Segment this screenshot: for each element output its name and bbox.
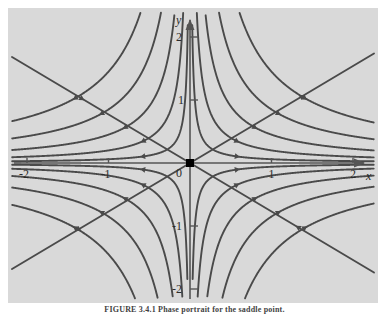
y-axis-label: y	[176, 14, 181, 26]
figure-caption: FIGURE 3.4.1 Phase portrait for the sadd…	[0, 304, 389, 326]
phase-portrait-plot	[8, 8, 378, 303]
x-tick-label--2: -2	[19, 168, 29, 180]
x-tick-label-2: 2	[350, 168, 356, 180]
y-tick-label-2: 2	[176, 31, 182, 43]
x-tick-label-1: 1	[269, 168, 275, 180]
plot-panel: y x 0 -2 -1 1 2 2 1 -1 -2	[8, 8, 378, 303]
figure-container: y x 0 -2 -1 1 2 2 1 -1 -2 FIGURE 3.4.1 P…	[0, 0, 389, 326]
origin-tick-label: 0	[176, 167, 182, 179]
trajectory-curves	[12, 13, 374, 298]
x-tick-label--1: -1	[101, 168, 111, 180]
y-tick-label--2: -2	[172, 283, 182, 295]
equilibrium-point-marker	[186, 159, 194, 167]
figure-caption-text: FIGURE 3.4.1 Phase portrait for the sadd…	[104, 305, 284, 314]
y-tick-label--1: -1	[172, 220, 182, 232]
x-axis-label: x	[366, 170, 371, 182]
y-tick-label-1: 1	[178, 94, 184, 106]
